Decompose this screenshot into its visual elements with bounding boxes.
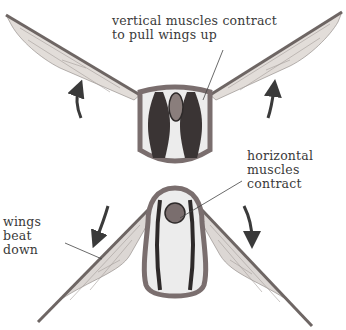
wings-label-line3: down <box>3 243 41 257</box>
wings-beat-down-label: wings beat down <box>3 215 41 257</box>
gut-upstroke <box>169 93 183 121</box>
thorax-downstroke <box>144 188 205 296</box>
vertical-label-line2: to pull wings up <box>112 28 277 42</box>
horizontal-label-line1: horizontal <box>247 149 313 163</box>
vertical-label-line1: vertical muscles contract <box>112 14 277 28</box>
wings-label-line1: wings <box>3 215 41 229</box>
insect-flight-diagram: vertical muscles contract to pull wings … <box>0 0 346 330</box>
leader-line-wings <box>65 243 102 259</box>
thorax-upstroke <box>140 87 210 161</box>
arrow-up-right <box>268 88 274 118</box>
arrow-down-right <box>244 206 252 240</box>
gut-downstroke <box>165 203 185 223</box>
right-wing-down <box>200 210 312 326</box>
arrow-up-left <box>77 88 81 118</box>
downstroke-panel <box>38 181 312 326</box>
horizontal-label-line2: muscles <box>247 163 313 177</box>
horizontal-label-line3: contract <box>247 177 313 191</box>
wings-label-line2: beat <box>3 229 41 243</box>
vertical-muscles-label: vertical muscles contract to pull wings … <box>112 14 277 42</box>
left-wing-down <box>38 210 150 322</box>
arrow-down-left <box>96 206 108 240</box>
horizontal-muscles-label: horizontal muscles contract <box>247 149 313 191</box>
